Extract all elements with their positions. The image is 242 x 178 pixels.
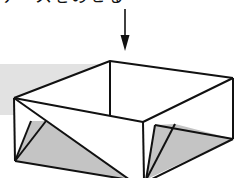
down-arrow-icon [121, 9, 130, 51]
origami-box-diagram [0, 0, 242, 178]
